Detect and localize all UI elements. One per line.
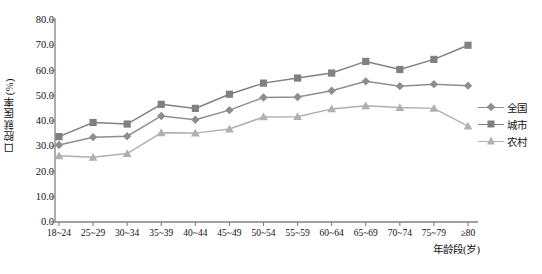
- legend-marker-square-icon: [488, 121, 495, 128]
- legend-item-城市[interactable]: 城市: [478, 117, 540, 131]
- x-axis-tick-label: ≥80: [461, 228, 476, 238]
- legend-symbol-square-icon: [478, 118, 504, 130]
- x-axis-tick-label: 40~44: [183, 228, 207, 238]
- x-axis-tick-label: 55~59: [286, 228, 310, 238]
- x-axis-tick-label: 75~79: [422, 228, 446, 238]
- x-axis-tick-label: 65~69: [354, 228, 378, 238]
- x-axis-tick-labels: 18~2425~2930~3435~3940~4445~4950~5455~59…: [0, 0, 542, 274]
- x-axis-tick-label: 45~49: [217, 228, 241, 238]
- legend-symbol-triangle-icon: [478, 135, 504, 147]
- chart-container: 口腔就医率(%) 0.010.020.030.040.050.060.070.0…: [0, 0, 542, 274]
- legend-marker-diamond-icon: [487, 103, 495, 111]
- x-axis-tick-label: 18~24: [47, 228, 71, 238]
- legend-item-农村[interactable]: 农村: [478, 134, 540, 148]
- x-axis-tick-label: 25~29: [81, 228, 105, 238]
- legend-label: 农村: [507, 134, 527, 149]
- x-axis-tick-label: 35~39: [149, 228, 173, 238]
- legend-item-全国[interactable]: 全国: [478, 100, 540, 114]
- legend: 全国城市农村: [478, 100, 540, 151]
- legend-symbol-diamond-icon: [478, 101, 504, 113]
- legend-label: 城市: [507, 117, 527, 132]
- x-axis-tick-label: 50~54: [251, 228, 275, 238]
- x-axis-label: 年龄段(岁): [433, 241, 480, 256]
- legend-marker-triangle-icon: [487, 137, 495, 145]
- x-axis-tick-label: 60~64: [320, 228, 344, 238]
- legend-label: 全国: [507, 100, 527, 115]
- x-axis-tick-label: 30~34: [115, 228, 139, 238]
- x-axis-tick-label: 70~74: [388, 228, 412, 238]
